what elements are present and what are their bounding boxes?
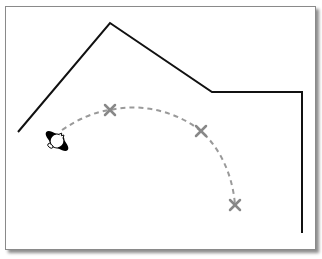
floor-plan-diagram (0, 0, 322, 259)
waypoint-x-marker (196, 126, 206, 136)
person-top-view-icon (40, 125, 74, 157)
wall-outline (18, 23, 302, 233)
waypoint-markers (105, 105, 240, 210)
dashed-walking-path (62, 107, 235, 205)
